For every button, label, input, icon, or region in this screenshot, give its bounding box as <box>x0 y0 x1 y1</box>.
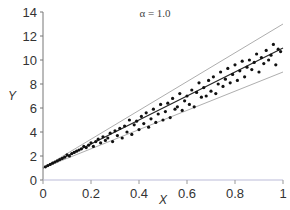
data-point <box>137 128 140 131</box>
data-point <box>109 132 112 135</box>
data-point <box>111 140 114 143</box>
data-point <box>142 122 145 125</box>
data-point <box>181 109 184 112</box>
y-tick-label: 0 <box>30 173 37 188</box>
data-point <box>241 60 244 63</box>
data-point <box>253 61 256 64</box>
data-point <box>217 82 220 85</box>
y-tick-label: 12 <box>23 29 37 44</box>
y-tick-label: 10 <box>23 53 37 68</box>
data-point <box>121 136 124 139</box>
data-point <box>147 126 150 129</box>
data-point <box>267 58 270 61</box>
data-point <box>68 154 71 157</box>
data-point <box>260 56 263 59</box>
data-point <box>219 70 222 73</box>
data-point <box>197 81 200 84</box>
data-point <box>185 94 188 97</box>
data-point <box>257 70 260 73</box>
data-point <box>101 135 104 138</box>
data-point <box>248 58 251 61</box>
data-point <box>272 43 275 46</box>
data-point <box>224 78 227 81</box>
data-point <box>200 96 203 99</box>
data-point <box>277 48 280 51</box>
data-point <box>250 68 253 71</box>
data-point <box>262 62 265 65</box>
data-point <box>233 63 236 66</box>
data-point <box>99 141 102 144</box>
x-tick-label: 0.2 <box>82 186 100 201</box>
chart-title: α = 1.0 <box>139 7 171 19</box>
data-point <box>171 97 174 100</box>
data-point <box>106 136 109 139</box>
y-ticks: 02468101214 <box>23 5 43 188</box>
data-point <box>212 75 215 78</box>
data-point <box>193 105 196 108</box>
data-point <box>113 129 116 132</box>
data-point <box>94 140 97 143</box>
y-tick-label: 8 <box>30 77 37 92</box>
data-point <box>226 67 229 70</box>
data-point <box>166 102 169 105</box>
data-point <box>97 138 100 141</box>
data-point <box>209 90 212 93</box>
data-point <box>130 133 133 136</box>
data-point <box>245 66 248 69</box>
x-tick-label: 0.4 <box>130 186 148 201</box>
data-point <box>195 91 198 94</box>
data-point <box>202 86 205 89</box>
data-point <box>123 124 126 127</box>
y-tick-label: 6 <box>30 101 37 116</box>
fit-lines <box>43 24 283 168</box>
data-point <box>161 118 164 121</box>
x-tick-label: 0 <box>39 186 46 201</box>
x-axis-label: X <box>158 193 168 207</box>
data-point <box>140 115 143 118</box>
data-point <box>154 121 157 124</box>
scatter-chart: α = 1.0 02468101214 00.20.40.60.81 Y X <box>0 0 290 210</box>
data-point <box>145 111 148 114</box>
y-axis-label: Y <box>8 89 17 103</box>
data-point <box>231 73 234 76</box>
data-point <box>135 120 138 123</box>
data-point <box>183 99 186 102</box>
data-point <box>116 134 119 137</box>
data-point <box>255 52 258 55</box>
data-point <box>157 112 160 115</box>
data-point <box>176 105 179 108</box>
upper-bound-line <box>43 24 283 168</box>
data-point <box>149 117 152 120</box>
data-point <box>214 92 217 95</box>
data-points <box>44 43 282 169</box>
data-point <box>265 49 268 52</box>
data-point <box>85 146 88 149</box>
data-point <box>269 54 272 57</box>
data-point <box>87 144 90 147</box>
data-point <box>221 85 224 88</box>
data-point <box>169 116 172 119</box>
data-point <box>152 108 155 111</box>
data-point <box>63 156 66 159</box>
data-point <box>229 81 232 84</box>
data-point <box>159 103 162 106</box>
data-point <box>164 110 167 113</box>
data-point <box>274 63 277 66</box>
data-point <box>243 75 246 78</box>
data-point <box>104 139 107 142</box>
data-point <box>238 69 241 72</box>
data-point <box>92 145 95 148</box>
x-tick-label: 0.8 <box>226 186 244 201</box>
x-tick-label: 0.6 <box>178 186 196 201</box>
data-point <box>207 79 210 82</box>
y-tick-label: 4 <box>30 125 37 140</box>
data-point <box>236 79 239 82</box>
data-point <box>89 141 92 144</box>
data-point <box>178 92 181 95</box>
data-point <box>173 108 176 111</box>
data-point <box>190 88 193 91</box>
data-point <box>128 118 131 121</box>
data-point <box>118 127 121 130</box>
y-tick-label: 2 <box>30 149 37 164</box>
data-point <box>133 123 136 126</box>
